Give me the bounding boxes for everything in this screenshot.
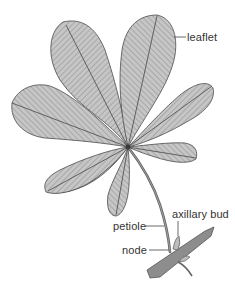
leaflets xyxy=(12,15,214,216)
label-axillary-bud: axillary bud xyxy=(172,208,229,220)
branch xyxy=(147,227,214,278)
leaf-diagram xyxy=(0,0,235,290)
petiole xyxy=(128,147,170,252)
label-leaflet: leaflet xyxy=(187,31,217,43)
label-petiole: petiole xyxy=(113,220,146,232)
axillary-bud xyxy=(173,236,180,250)
label-node: node xyxy=(122,244,147,256)
